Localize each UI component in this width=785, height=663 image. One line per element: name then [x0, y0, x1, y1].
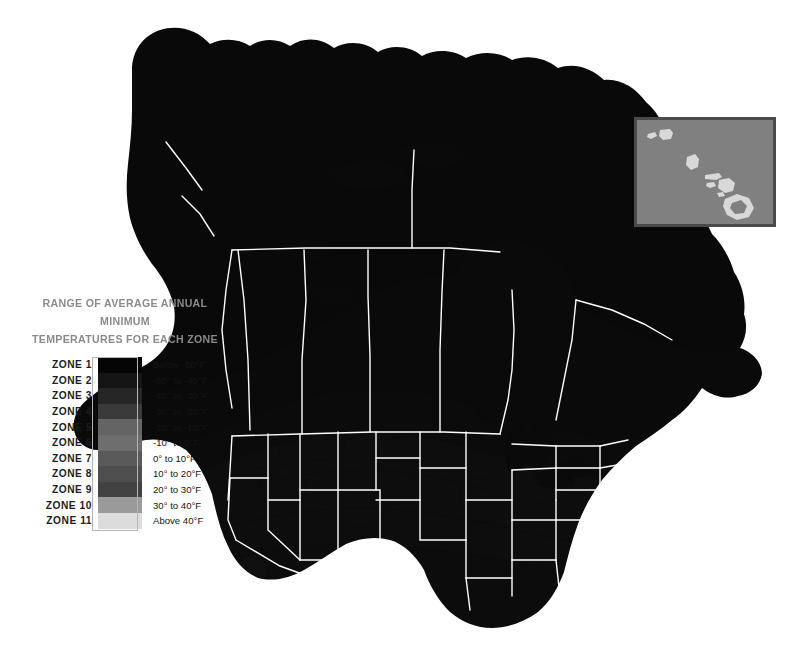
legend-swatch-zone-11 [98, 513, 142, 529]
legend-row: ZONE 7 0° to 10°F [14, 451, 236, 467]
legend-range-label: 0° to 10°F [142, 453, 196, 464]
map-canvas: RANGE OF AVERAGE ANNUAL MINIMUM TEMPERAT… [0, 0, 785, 663]
hawaii-inset-box [634, 117, 776, 227]
legend-range-label: 10° to 20°F [142, 468, 201, 479]
legend-range-label: 30° to 40°F [142, 500, 201, 511]
legend-row: ZONE 10 30° to 40°F [14, 497, 236, 513]
legend-swatch-zone-5 [98, 419, 142, 435]
legend-row: ZONE 2 -50° to -40°F [14, 373, 236, 389]
legend-zone-label: ZONE 7 [14, 453, 98, 464]
legend-swatch-zone-6 [98, 435, 142, 451]
legend-row: ZONE 1 Below -50°F [14, 357, 236, 373]
legend-range-label: Below -50°F [142, 359, 205, 370]
legend-row: ZONE 9 20° to 30°F [14, 482, 236, 498]
legend-zone-label: ZONE 11 [14, 515, 98, 526]
legend: RANGE OF AVERAGE ANNUAL MINIMUM TEMPERAT… [14, 294, 236, 529]
legend-swatch-zone-1 [98, 357, 142, 373]
legend-range-label: -50° to -40°F [142, 375, 208, 386]
legend-zone-label: ZONE 3 [14, 390, 98, 401]
legend-range-label: -20° to -10°F [142, 422, 208, 433]
legend-swatch-zone-7 [98, 451, 142, 467]
legend-range-label: -10° to 0°F [142, 437, 199, 448]
legend-zone-label: ZONE 2 [14, 375, 98, 386]
legend-row: ZONE 5 -20° to -10°F [14, 419, 236, 435]
legend-row: ZONE 11 Above 40°F [14, 513, 236, 529]
legend-range-label: -30° to -20°F [142, 406, 208, 417]
legend-swatch-zone-10 [98, 497, 142, 513]
legend-swatch-zone-2 [98, 373, 142, 389]
legend-zone-label: ZONE 6 [14, 437, 98, 448]
legend-row: ZONE 4 -30° to -20°F [14, 404, 236, 420]
legend-range-label: -40° to -30°F [142, 390, 208, 401]
legend-zone-label: ZONE 9 [14, 484, 98, 495]
legend-row: ZONE 8 10° to 20°F [14, 466, 236, 482]
legend-swatch-zone-3 [98, 388, 142, 404]
legend-range-label: 20° to 30°F [142, 484, 201, 495]
legend-swatch-zone-4 [98, 404, 142, 420]
legend-table: ZONE 1 Below -50°F ZONE 2 -50° to -40°F … [14, 357, 236, 529]
legend-zone-label: ZONE 10 [14, 500, 98, 511]
legend-row: ZONE 3 -40° to -30°F [14, 388, 236, 404]
legend-zone-label: ZONE 1 [14, 359, 98, 370]
legend-zone-label: ZONE 5 [14, 422, 98, 433]
hawaii-inset-svg [637, 120, 773, 224]
legend-zone-label: ZONE 4 [14, 406, 98, 417]
legend-swatch-zone-8 [98, 466, 142, 482]
legend-zone-label: ZONE 8 [14, 468, 98, 479]
legend-range-label: Above 40°F [142, 515, 203, 526]
legend-row: ZONE 6 -10° to 0°F [14, 435, 236, 451]
legend-swatch-zone-9 [98, 482, 142, 498]
legend-title: RANGE OF AVERAGE ANNUAL MINIMUM TEMPERAT… [22, 294, 228, 348]
